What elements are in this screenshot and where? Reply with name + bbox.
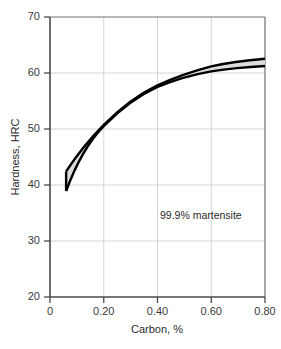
band-fill-area bbox=[66, 59, 265, 191]
x-tick-label-0: 0 bbox=[47, 305, 53, 317]
chart-figure: 70 60 50 40 30 20 Hardness, HRC 0 0.20 0… bbox=[0, 0, 281, 349]
data-band bbox=[66, 59, 265, 191]
y-tick-label-30: 30 bbox=[28, 234, 40, 246]
x-tick-label-040: 0.40 bbox=[147, 305, 168, 317]
y-axis: 70 60 50 40 30 20 Hardness, HRC bbox=[9, 10, 50, 302]
band-upper-curve bbox=[66, 59, 265, 172]
y-tick-label-40: 40 bbox=[28, 178, 40, 190]
martensite-annotation: 99.9% martensite bbox=[160, 209, 242, 221]
x-tick-label-020: 0.20 bbox=[93, 305, 114, 317]
band-lower-curve bbox=[66, 66, 265, 191]
x-axis: 0 0.20 0.40 0.60 0.80 Carbon, % bbox=[47, 297, 276, 335]
y-axis-title: Hardness, HRC bbox=[9, 118, 21, 195]
hardness-vs-carbon-chart: 70 60 50 40 30 20 Hardness, HRC 0 0.20 0… bbox=[0, 0, 281, 349]
y-tick-label-50: 50 bbox=[28, 122, 40, 134]
x-axis-title: Carbon, % bbox=[131, 323, 183, 335]
x-tick-label-080: 0.80 bbox=[254, 305, 275, 317]
x-tick-label-060: 0.60 bbox=[201, 305, 222, 317]
y-tick-label-20: 20 bbox=[28, 290, 40, 302]
y-tick-label-60: 60 bbox=[28, 66, 40, 78]
y-tick-label-70: 70 bbox=[28, 10, 40, 22]
